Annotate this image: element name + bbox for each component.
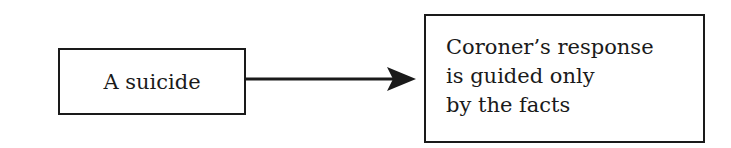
target-node-line-1: Coroner’s response xyxy=(446,33,703,62)
target-node-box: Coroner’s response is guided only by the… xyxy=(424,14,705,143)
target-node-line-2: is guided only xyxy=(446,62,703,91)
target-node-line-3: by the facts xyxy=(446,91,703,120)
